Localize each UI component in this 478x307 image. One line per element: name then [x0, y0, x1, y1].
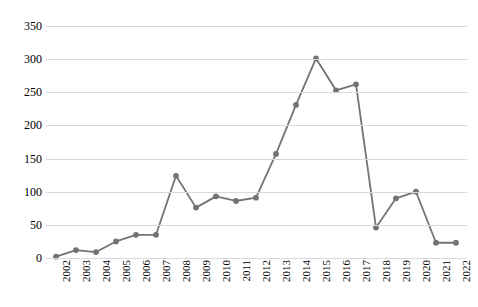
x-axis-tick-label: 2004	[100, 260, 112, 282]
y-axis-tick-label: 250	[2, 86, 42, 98]
x-axis-tick-label: 2015	[320, 260, 332, 282]
data-point	[293, 102, 299, 108]
data-point	[213, 193, 219, 199]
data-point	[273, 151, 279, 157]
y-axis: 050100150200250300350	[0, 26, 42, 258]
x-axis-tick-label: 2016	[340, 260, 352, 282]
x-axis-tick-label: 2005	[120, 260, 132, 282]
y-axis-tick-label: 150	[2, 153, 42, 165]
data-point	[133, 232, 139, 238]
y-axis-tick-label: 350	[2, 20, 42, 32]
y-axis-tick-label: 200	[2, 119, 42, 131]
y-axis-tick-label: 50	[2, 219, 42, 231]
gridline	[46, 192, 467, 193]
x-axis-tick-label: 2012	[260, 260, 272, 282]
y-axis-tick-label: 300	[2, 53, 42, 65]
gridline	[46, 26, 467, 27]
data-point	[153, 232, 159, 238]
x-axis-tick-label: 2019	[400, 260, 412, 282]
line-chart: 050100150200250300350 200220032004200520…	[0, 0, 478, 307]
x-axis-tick-label: 2006	[140, 260, 152, 282]
x-axis-tick-label: 2021	[440, 260, 452, 282]
x-axis-tick-label: 2007	[160, 260, 172, 282]
data-point	[173, 173, 179, 179]
series-markers	[53, 56, 459, 260]
x-axis-tick-label: 2003	[80, 260, 92, 282]
data-point	[193, 205, 199, 211]
gridline	[46, 92, 467, 93]
x-axis: 2002200320042005200620072008200920102011…	[46, 260, 467, 306]
series-line	[56, 58, 456, 256]
data-point	[233, 198, 239, 204]
series-line-group	[46, 26, 467, 258]
x-axis-tick-label: 2009	[200, 260, 212, 282]
y-axis-tick-label: 0	[2, 252, 42, 264]
gridline	[46, 59, 467, 60]
data-point	[73, 247, 79, 253]
data-point	[453, 240, 459, 246]
data-point	[393, 195, 399, 201]
data-point	[353, 81, 359, 87]
x-axis-baseline	[46, 258, 467, 259]
x-axis-tick-label: 2010	[220, 260, 232, 282]
gridline	[46, 159, 467, 160]
gridline	[46, 225, 467, 226]
data-point	[433, 240, 439, 246]
plot-area	[46, 26, 467, 258]
x-axis-tick-label: 2008	[180, 260, 192, 282]
data-point	[93, 249, 99, 255]
x-axis-tick-label: 2013	[280, 260, 292, 282]
x-axis-tick-label: 2022	[460, 260, 472, 282]
data-point	[113, 239, 119, 245]
x-axis-tick-label: 2018	[380, 260, 392, 282]
x-axis-tick-label: 2014	[300, 260, 312, 282]
x-axis-tick-label: 2011	[240, 260, 252, 282]
data-point	[253, 195, 259, 201]
y-axis-tick-label: 100	[2, 186, 42, 198]
gridline	[46, 125, 467, 126]
x-axis-tick-label: 2002	[60, 260, 72, 282]
x-axis-tick-label: 2017	[360, 260, 372, 282]
x-axis-tick-label: 2020	[420, 260, 432, 282]
